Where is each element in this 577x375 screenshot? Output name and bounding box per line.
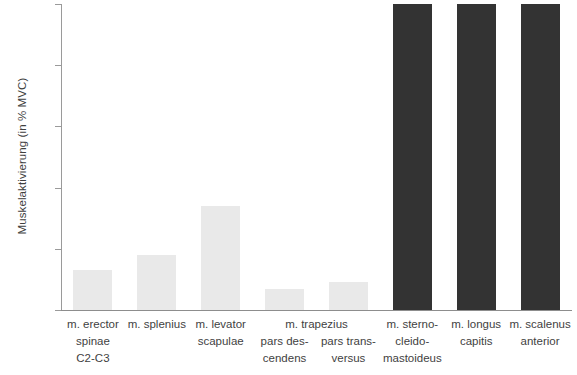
bar-trapezius-transversus bbox=[329, 282, 368, 310]
x-axis-line bbox=[61, 310, 572, 311]
group-label-trapezius: m. trapezius bbox=[253, 316, 381, 333]
x-label-line: C2-C3 bbox=[55, 350, 131, 367]
bar-erector-spinae bbox=[73, 270, 112, 310]
bar-longus-capitis bbox=[457, 4, 496, 310]
y-tick-mark bbox=[55, 310, 61, 311]
x-label-line: mastoideus bbox=[374, 350, 450, 367]
bar-series bbox=[61, 4, 572, 310]
x-label-line: m. levator bbox=[183, 316, 259, 333]
bar-trapezius-descendens bbox=[265, 289, 304, 310]
bar-levator-scapulae bbox=[201, 206, 240, 310]
y-axis-title: Muskelaktivierung (in % MVC) bbox=[16, 26, 28, 286]
x-axis-labels: m. trapeziusm. erectorspinaeC2-C3m. sple… bbox=[61, 316, 572, 375]
bar-sternocleidomastoideus bbox=[393, 4, 432, 310]
x-label-line: spinae bbox=[55, 333, 131, 350]
bar-scalenus-anterior bbox=[521, 4, 560, 310]
x-label-line: m. scalenus bbox=[502, 316, 577, 333]
plot-area: 100806040200 bbox=[61, 4, 572, 311]
bar-chart: Muskelaktivierung (in % MVC) 10080604020… bbox=[0, 0, 577, 375]
bar-splenius bbox=[137, 255, 176, 310]
x-label-line: anterior bbox=[502, 333, 577, 350]
x-label-scalenus-anterior: m. scalenusanterior bbox=[502, 316, 577, 350]
